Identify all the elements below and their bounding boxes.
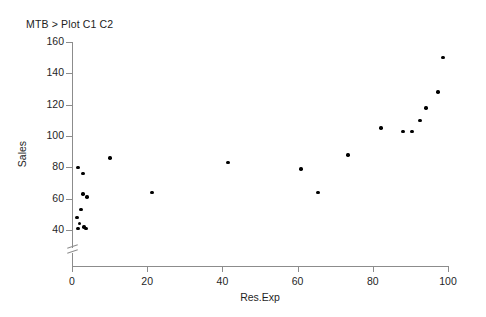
x-tick-60: [298, 266, 299, 272]
y-tick-40: [66, 230, 72, 231]
data-point: [78, 222, 81, 225]
data-point: [436, 90, 439, 93]
x-axis-line: [72, 266, 449, 267]
x-tick-label-60: 60: [278, 275, 318, 287]
x-tick-label-20: 20: [127, 275, 167, 287]
data-point: [84, 227, 87, 230]
y-tick-label-120: 120: [24, 98, 64, 110]
data-point: [79, 208, 82, 211]
scatter-plot: 406080100120140160 020406080100 Sales Re…: [0, 0, 486, 317]
data-point: [76, 166, 79, 169]
y-tick-label-60: 60: [24, 192, 64, 204]
y-tick-140: [66, 73, 72, 74]
y-tick-label-140: 140: [24, 66, 64, 78]
x-tick-40: [222, 266, 223, 272]
data-point: [316, 191, 319, 194]
data-point: [85, 195, 88, 198]
data-point: [441, 56, 444, 59]
x-axis-title: Res.Exp: [200, 291, 320, 303]
y-tick-60: [66, 199, 72, 200]
y-axis-title: Sales: [16, 124, 28, 184]
y-axis-break-icon: [67, 243, 78, 255]
data-point: [299, 167, 302, 170]
y-tick-160: [66, 42, 72, 43]
data-point: [346, 153, 349, 156]
data-point: [226, 161, 229, 164]
y-tick-label-80: 80: [24, 160, 64, 172]
x-tick-label-40: 40: [202, 275, 242, 287]
data-point: [75, 216, 78, 219]
x-tick-80: [373, 266, 374, 272]
x-tick-20: [147, 266, 148, 272]
y-tick-label-100: 100: [24, 129, 64, 141]
data-point: [410, 130, 413, 133]
x-tick-label-80: 80: [353, 275, 393, 287]
x-tick-label-0: 0: [52, 275, 92, 287]
data-point: [150, 191, 153, 194]
x-tick-100: [448, 266, 449, 272]
y-tick-100: [66, 136, 72, 137]
data-point: [424, 106, 427, 109]
data-point: [401, 130, 404, 133]
y-axis-line: [72, 42, 73, 248]
x-tick-0: [72, 266, 73, 272]
y-tick-label-160: 160: [24, 35, 64, 47]
data-point: [418, 119, 421, 122]
y-tick-120: [66, 105, 72, 106]
data-point: [108, 156, 111, 159]
data-point: [76, 227, 79, 230]
data-point: [379, 126, 382, 129]
x-tick-label-100: 100: [428, 275, 468, 287]
data-point: [81, 192, 84, 195]
y-tick-label-40: 40: [24, 223, 64, 235]
data-point: [81, 172, 84, 175]
y-tick-80: [66, 167, 72, 168]
